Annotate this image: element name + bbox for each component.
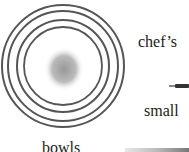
bowls-label: bowls xyxy=(42,140,80,152)
knife-handle xyxy=(175,84,189,88)
small-knife-label: small xyxy=(144,103,179,119)
utensil-icon xyxy=(125,148,189,152)
chefs-knife-label: chef’s xyxy=(138,34,177,50)
nested-bowls-icon xyxy=(0,3,127,130)
